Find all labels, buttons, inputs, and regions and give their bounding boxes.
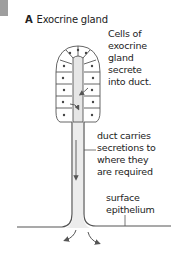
label-line: epithelium [106,204,170,216]
label-line: surface [106,192,170,204]
label-line: are required [97,166,171,178]
label-line: Cells of [108,28,170,40]
label-line: exocrine [108,40,170,52]
secretory-cells [56,46,100,122]
label-line: secrete [108,64,170,76]
label-epithelium: surface epithelium [106,192,170,216]
label-line: secretions to [97,142,171,154]
label-line: where they [97,154,171,166]
label-line: into duct. [108,76,170,88]
label-line: duct carries [97,130,171,142]
label-line: gland [108,52,170,64]
outflow-arrows [66,230,98,243]
label-duct: duct carries secretions to where they ar… [97,130,171,178]
label-cells: Cells of exocrine gland secrete into duc… [108,28,170,88]
